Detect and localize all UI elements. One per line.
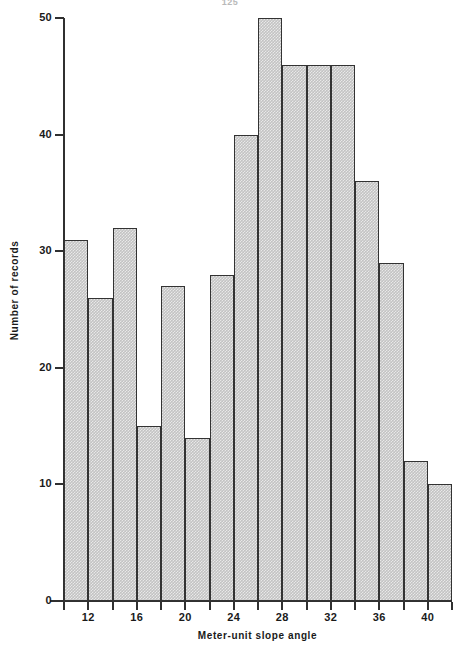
x-axis-tick	[160, 602, 162, 610]
x-axis-tick-label: 36	[364, 611, 394, 623]
histogram-bar	[258, 18, 282, 601]
x-axis-tick	[378, 602, 380, 610]
x-axis-tick	[233, 602, 235, 610]
x-axis-tick	[451, 602, 453, 610]
y-axis-tick	[55, 483, 64, 485]
x-axis-tick	[354, 602, 356, 610]
x-axis-tick-label: 40	[413, 611, 443, 623]
x-axis-tick-label: 32	[316, 611, 346, 623]
y-axis-tick-label: 20	[28, 361, 52, 373]
x-axis-tick-label: 16	[122, 611, 152, 623]
x-axis-tick	[330, 602, 332, 610]
histogram-bar	[64, 240, 88, 601]
histogram-bar	[234, 135, 258, 601]
y-axis-title: Number of records	[9, 231, 20, 351]
y-axis-tick	[55, 250, 64, 252]
x-axis-tick	[87, 602, 89, 610]
x-axis-tick	[257, 602, 259, 610]
x-axis-title: Meter-unit slope angle	[63, 630, 452, 641]
y-axis-tick-label: 40	[28, 128, 52, 140]
histogram-figure: 125 01020304050 1216202428323640 Meter-u…	[0, 0, 460, 651]
histogram-bar	[113, 228, 137, 601]
x-axis-tick-label: 28	[267, 611, 297, 623]
y-axis-tick-label: 30	[28, 244, 52, 256]
y-axis-tick-label: 10	[28, 477, 52, 489]
x-axis-tick	[281, 602, 283, 610]
histogram-bar	[355, 181, 379, 601]
histogram-bar	[282, 65, 306, 601]
bars-group	[0, 0, 460, 651]
y-axis-tick-label: 50	[28, 11, 52, 23]
x-axis-tick-label: 24	[219, 611, 249, 623]
histogram-bar	[428, 484, 452, 601]
histogram-bar	[88, 298, 112, 601]
x-axis-tick	[63, 602, 65, 610]
x-axis-tick	[403, 602, 405, 610]
x-axis-tick-label: 20	[170, 611, 200, 623]
histogram-bar	[161, 286, 185, 601]
histogram-bar	[210, 275, 234, 601]
x-axis-tick	[209, 602, 211, 610]
x-axis-tick	[427, 602, 429, 610]
x-axis-tick	[112, 602, 114, 610]
histogram-bar	[137, 426, 161, 601]
y-axis-tick	[55, 367, 64, 369]
y-axis-tick-label: 0	[28, 594, 52, 606]
y-axis-tick	[55, 134, 64, 136]
x-axis-tick	[136, 602, 138, 610]
x-axis-tick	[184, 602, 186, 610]
histogram-bar	[307, 65, 331, 601]
histogram-bar	[379, 263, 403, 601]
histogram-bar	[404, 461, 428, 601]
y-axis-tick	[55, 17, 64, 19]
x-axis-tick	[306, 602, 308, 610]
histogram-bar	[331, 65, 355, 601]
histogram-bar	[185, 438, 209, 601]
x-axis-tick-label: 12	[73, 611, 103, 623]
